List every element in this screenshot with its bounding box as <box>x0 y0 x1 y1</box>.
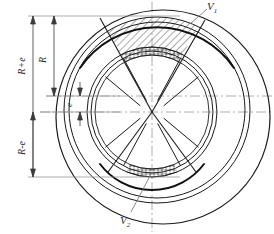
dim-label-r-minus-e: R-e <box>16 141 27 156</box>
arrow-r-minus-e-top <box>31 112 36 120</box>
arrow-r-plus-e-top <box>31 16 36 24</box>
leader-v2 <box>131 172 152 212</box>
annotation-v2: V2 <box>120 214 131 229</box>
arrow-r-top <box>52 16 57 24</box>
arrow-e-bottom <box>78 112 83 120</box>
annotation-v1: V1 <box>207 0 217 15</box>
hatched-wedge-v1 <box>64 17 250 112</box>
spoke-2 <box>164 77 199 106</box>
spoke-6 <box>105 118 140 147</box>
wedge-bot-ray-right <box>152 112 196 172</box>
dim-label-r: R <box>37 57 48 64</box>
engineering-drawing-svg: R+e R e R-e V1 V2 <box>0 0 274 234</box>
arrow-e-top <box>78 88 83 96</box>
technical-drawing-canvas: R+e R e R-e V1 V2 <box>0 0 274 234</box>
wedge-bot-ray-left <box>108 112 152 172</box>
annotation-v1-subscript: 1 <box>214 7 218 15</box>
arrow-r-bottom <box>52 88 57 96</box>
annotation-v2-subscript: 2 <box>127 221 131 229</box>
spoke-3 <box>164 118 199 147</box>
dim-label-e: e <box>64 103 74 107</box>
dim-label-r-plus-e: R+e <box>16 57 27 76</box>
